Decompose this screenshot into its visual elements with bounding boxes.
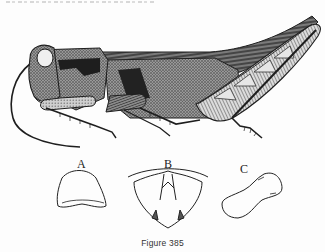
detail-label-b: B [164,158,172,170]
detail-a-drawing [57,171,106,208]
hind-tarsus [232,118,262,138]
detail-label-a: A [77,158,86,170]
detail-label-c: C [240,163,248,175]
figure-caption: Figure 385 [0,238,325,248]
compound-eye [37,49,53,67]
detail-c-drawing [222,173,282,218]
grasshopper-illustration [0,0,325,252]
document-page: A B C Figure 385 [0,0,325,252]
detail-b-drawing [128,169,208,228]
front-tibia [46,108,96,126]
front-tarsus [96,126,116,138]
